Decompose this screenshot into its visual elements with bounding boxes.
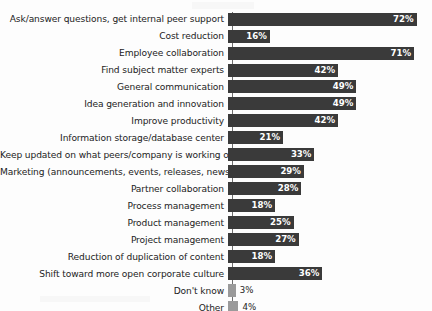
bar-track: 18%: [228, 250, 432, 264]
bar-track: 72%: [228, 12, 432, 26]
bar: 27%: [228, 233, 299, 246]
category-label: Process management: [0, 201, 228, 211]
bar: 33%: [228, 148, 314, 161]
bar: 18%: [228, 199, 275, 212]
category-label: Partner collaboration: [0, 184, 228, 194]
bar-value-label: 21%: [259, 133, 280, 142]
bar-row: Employee collaboration71%: [0, 46, 432, 60]
bar-track: 36%: [228, 267, 432, 281]
bar-chart: Ask/answer questions, get internal peer …: [0, 0, 432, 311]
bar-row: Shift toward more open corporate culture…: [0, 267, 432, 281]
category-label: Information storage/database center: [0, 133, 228, 143]
bar-track: 25%: [228, 216, 432, 230]
bar-value-label: 29%: [280, 167, 301, 176]
bar-row: Process management18%: [0, 199, 432, 213]
category-label: Improve productivity: [0, 116, 228, 126]
bar: 25%: [228, 216, 294, 229]
bar-row: Keep updated on what peers/company is wo…: [0, 148, 432, 162]
bar-value-label: 27%: [275, 235, 296, 244]
bar-row: Find subject matter experts42%: [0, 63, 432, 77]
bar-row: Product management25%: [0, 216, 432, 230]
bar: 21%: [228, 131, 283, 144]
bar-track: 71%: [228, 46, 432, 60]
category-label: Other: [0, 303, 228, 311]
bar-row: Information storage/database center21%: [0, 131, 432, 145]
category-label: Product management: [0, 218, 228, 228]
category-label: Project management: [0, 235, 228, 245]
bar-row: Project management27%: [0, 233, 432, 247]
category-label: Shift toward more open corporate culture: [0, 269, 228, 279]
bar-track: 3%: [228, 284, 432, 298]
category-label: Marketing (announcements, events, releas…: [0, 167, 228, 177]
bar: 3%: [228, 284, 236, 297]
bar-value-label: 36%: [299, 269, 320, 278]
bar-row: Improve productivity42%: [0, 114, 432, 128]
bar-row: General communication49%: [0, 80, 432, 94]
bar-track: 33%: [228, 148, 432, 162]
bar-track: 18%: [228, 199, 432, 213]
bar: 72%: [228, 13, 417, 26]
category-label: Don't know: [0, 286, 228, 296]
bar: 71%: [228, 47, 414, 60]
bar-value-label: 4%: [242, 303, 256, 311]
category-label: Keep updated on what peers/company is wo…: [0, 150, 228, 160]
bar-value-label: 49%: [333, 99, 354, 108]
bar: 36%: [228, 267, 322, 280]
bar-track: 28%: [228, 182, 432, 196]
bar-track: 27%: [228, 233, 432, 247]
bar-track: 42%: [228, 63, 432, 77]
bar-value-label: 16%: [246, 32, 267, 41]
bar-track: 49%: [228, 80, 432, 94]
bar-value-label: 18%: [252, 252, 273, 261]
plot-area: Ask/answer questions, get internal peer …: [0, 12, 432, 311]
bar-row: Marketing (announcements, events, releas…: [0, 165, 432, 179]
bar-row: Don't know3%: [0, 284, 432, 298]
bar-track: 42%: [228, 114, 432, 128]
bar: 18%: [228, 250, 275, 263]
bar-value-label: 42%: [314, 66, 335, 75]
category-label: General communication: [0, 82, 228, 92]
scan-artifact: [192, 2, 254, 9]
bar: 42%: [228, 114, 338, 127]
bar: 49%: [228, 97, 356, 110]
bar-value-label: 42%: [314, 116, 335, 125]
bar-row: Reduction of duplication of content18%: [0, 250, 432, 264]
bar: 49%: [228, 80, 356, 93]
bar-value-label: 28%: [278, 184, 299, 193]
category-label: Idea generation and innovation: [0, 99, 228, 109]
bar-value-label: 71%: [390, 49, 411, 58]
bar-value-label: 72%: [393, 15, 414, 24]
bar-row: Cost reduction16%: [0, 29, 432, 43]
category-label: Reduction of duplication of content: [0, 252, 228, 262]
bar-value-label: 3%: [240, 286, 254, 295]
bar-track: 49%: [228, 97, 432, 111]
category-label: Employee collaboration: [0, 48, 228, 58]
bar: 16%: [228, 30, 270, 43]
category-label: Cost reduction: [0, 31, 228, 41]
bar-value-label: 33%: [291, 150, 312, 159]
bar: 4%: [228, 301, 238, 311]
bar-value-label: 25%: [270, 218, 291, 227]
bar: 42%: [228, 64, 338, 77]
bar-row: Other4%: [0, 301, 432, 311]
bar-row: Partner collaboration28%: [0, 182, 432, 196]
bar-track: 4%: [228, 301, 432, 311]
bar: 29%: [228, 165, 304, 178]
bar-value-label: 49%: [333, 82, 354, 91]
category-label: Ask/answer questions, get internal peer …: [0, 14, 228, 24]
bar-row: Idea generation and innovation49%: [0, 97, 432, 111]
category-label: Find subject matter experts: [0, 65, 228, 75]
bar-value-label: 18%: [252, 201, 273, 210]
bar-track: 16%: [228, 29, 432, 43]
bar-track: 21%: [228, 131, 432, 145]
bar: 28%: [228, 182, 301, 195]
bar-row: Ask/answer questions, get internal peer …: [0, 12, 432, 26]
bar-track: 29%: [228, 165, 432, 179]
